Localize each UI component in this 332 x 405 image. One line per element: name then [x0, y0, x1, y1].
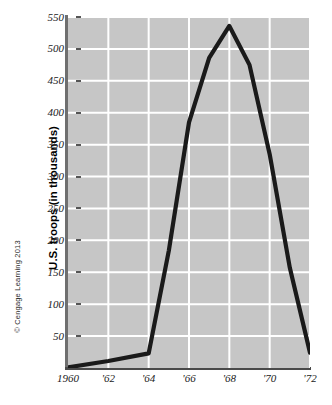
chart-figure: © Cengage Learning 2013 U.S. troops (in … [0, 0, 332, 405]
x-axis-tick-labels: 1960'62'64'66'68'70'72 [0, 0, 332, 405]
x-tick-label: '72 [280, 373, 332, 384]
